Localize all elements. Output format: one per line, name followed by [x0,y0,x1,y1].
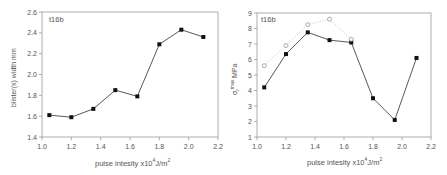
plot-frame [257,13,431,137]
data-point-marker [262,85,266,89]
y-tick-label: 1.8 [27,92,37,99]
y-tick-label: 3 [248,103,252,110]
y-tick-label: 1.4 [27,134,37,141]
y-tick-label: 1.6 [27,113,37,120]
x-tick-label: 2.2 [213,143,223,150]
data-point-marker [47,113,51,117]
data-point-marker [135,94,139,98]
y-axis-label: σfmax MPa [229,63,241,95]
x-tick-label: 2.0 [184,143,194,150]
x-tick-label: 1.2 [281,143,291,150]
data-point-marker [371,96,375,100]
stress-chart: 1234567891.01.21.41.61.82.02.2 t16b σfma… [224,0,447,175]
y-tick-label: 8 [248,25,252,32]
x-tick-label: 1.0 [252,143,262,150]
y-tick-label: 9 [248,10,252,17]
y-tick-label: 7 [248,41,252,48]
y-tick-label: 2.6 [27,9,37,16]
stress-plot: 1234567891.01.21.41.61.82.02.2 [224,0,447,175]
sample-tag: t16b [49,15,64,24]
y-tick-label: 2 [248,118,252,125]
data-point-marker [284,44,288,48]
blister-width-chart: 1.41.61.82.02.22.42.61.01.21.41.61.82.02… [0,0,224,175]
x-tick-label: 1.4 [96,143,106,150]
data-point-marker [393,118,397,122]
data-point-marker [328,38,332,42]
x-axis-label: pulse intesity x104J/m2 [95,157,170,168]
y-axis-unit: MPa [231,63,238,79]
x-tick-label: 2.0 [397,143,407,150]
x-axis-label-unit: J/m [367,158,379,167]
x-axis-label-unit-exp: 2 [379,156,382,162]
data-point-marker [179,28,183,32]
sigma-symbol: σ [231,91,238,95]
y-tick-label: 4 [248,87,252,94]
y-tick-label: 5 [248,72,252,79]
sigma-subscript: f [235,89,241,90]
x-tick-label: 1.8 [154,143,164,150]
y-axis-label-text: blister(s) width mm [10,48,17,107]
x-tick-label: 1.8 [368,143,378,150]
y-tick-label: 2.2 [27,50,37,57]
data-point-marker [349,37,353,41]
y-axis-label: blister(s) width mm [10,48,17,107]
sample-tag: t16b [261,15,276,24]
blister-width-plot: 1.41.61.82.02.22.42.61.01.21.41.61.82.02… [0,0,224,175]
data-point-marker [201,35,205,39]
x-tick-label: 2.2 [426,143,436,150]
data-point-marker [91,107,95,111]
data-point-marker [306,23,310,27]
plot-frame [42,12,218,137]
sigma-superscript: max [229,80,235,89]
y-tick-label: 2.0 [27,71,37,78]
x-tick-label: 1.2 [66,143,76,150]
x-axis-label-text: pulse intesity x10 [307,158,365,167]
data-point-marker [284,52,288,56]
x-tick-label: 1.0 [37,143,47,150]
x-axis-label: pulse intesity x104J/m2 [307,156,382,167]
y-tick-label: 1 [248,134,252,141]
x-tick-label: 1.6 [125,143,135,150]
data-point-marker [113,88,117,92]
x-axis-label-text: pulse intesity x10 [95,159,153,168]
x-tick-label: 1.6 [339,143,349,150]
data-point-marker [328,17,332,21]
x-tick-label: 1.4 [310,143,320,150]
data-point-marker [306,30,310,34]
y-tick-label: 6 [248,56,252,63]
data-point-marker [415,56,419,60]
y-tick-label: 2.4 [27,29,37,36]
data-point-marker [69,115,73,119]
data-point-marker [262,64,266,68]
x-axis-label-unit-exp: 2 [167,157,170,163]
data-point-marker [157,42,161,46]
series-line [49,30,203,118]
x-axis-label-unit: J/m [155,159,167,168]
